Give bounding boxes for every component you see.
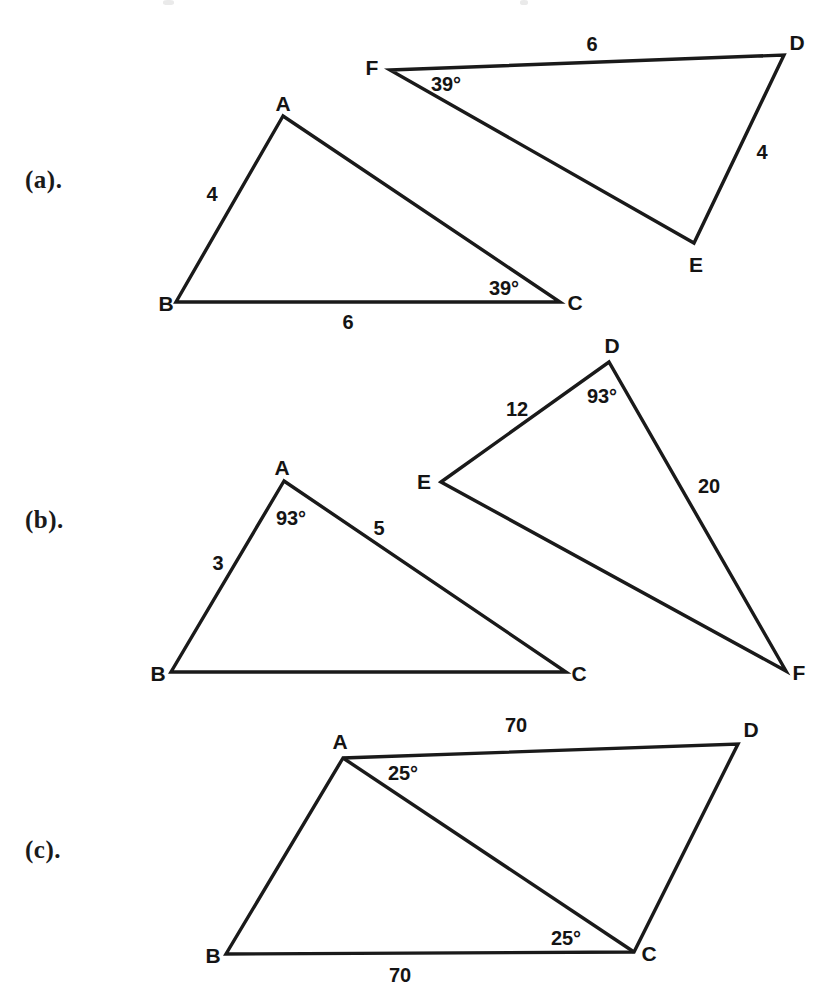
part-a-vertex-label-b: B: [158, 292, 173, 316]
part-b-triangle-def: [441, 362, 786, 671]
figure-page: (a).ABCDEF4639°6439°(b).ABCDEF393°51293°…: [0, 0, 823, 997]
part-b-side-length-df: 20: [698, 475, 720, 498]
part-b-vertex-label-b: B: [150, 662, 165, 686]
part-label-a: (a).: [25, 166, 62, 194]
part-a-vertex-label-c: C: [567, 291, 582, 315]
part-b-vertex-label-f: F: [793, 661, 806, 685]
part-c-vertex-label-a: A: [332, 730, 347, 754]
part-b-angle-a: 93°: [276, 507, 306, 530]
part-b-vertex-label-d: D: [604, 334, 619, 358]
part-a-angle-f: 39°: [431, 73, 461, 96]
part-c-side-length-ad: 70: [505, 714, 527, 737]
part-c-angle-a: 25°: [388, 762, 418, 785]
part-c-side-length-bc: 70: [389, 964, 411, 987]
part-label-c: (c).: [25, 836, 61, 864]
part-b-triangle-abc: [171, 481, 566, 672]
part-a-side-length-ab: 4: [206, 183, 217, 206]
part-c-vertex-label-d: D: [743, 718, 758, 742]
part-c-vertex-label-c: C: [641, 942, 656, 966]
part-b-vertex-label-a: A: [274, 456, 289, 480]
part-b-angle-d: 93°: [587, 385, 617, 408]
part-c-diagonal-ac: [343, 758, 634, 952]
part-a-side-length-fd: 6: [586, 33, 597, 56]
part-a-vertex-label-e: E: [689, 253, 703, 277]
part-b-side-length-ab: 3: [212, 552, 223, 575]
part-c-angle-c: 25°: [551, 927, 581, 950]
part-a-angle-c: 39°: [489, 277, 519, 300]
geometry-figure-canvas: [0, 0, 823, 997]
part-b-side-length-ed: 12: [506, 398, 528, 421]
part-a-vertex-label-a: A: [275, 92, 290, 116]
part-b-vertex-label-e: E: [417, 470, 431, 494]
part-b-side-length-ac: 5: [373, 517, 384, 540]
part-a-vertex-label-d: D: [789, 31, 804, 55]
part-b-vertex-label-c: C: [571, 662, 586, 686]
part-a-side-length-bc: 6: [342, 311, 353, 334]
part-a-side-length-de: 4: [756, 141, 767, 164]
part-c-shapes: [226, 744, 738, 954]
part-label-b: (b).: [25, 506, 64, 534]
part-a-vertex-label-f: F: [366, 56, 379, 80]
part-c-vertex-label-b: B: [205, 944, 220, 968]
part-b-shapes: [171, 362, 786, 672]
part-a-triangle-abc: [176, 116, 560, 302]
